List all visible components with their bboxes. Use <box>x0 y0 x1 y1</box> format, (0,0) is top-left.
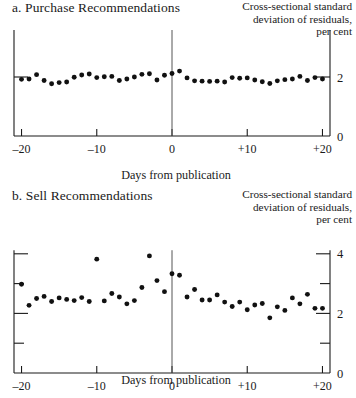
data-point <box>147 71 152 76</box>
data-point <box>252 78 257 83</box>
data-point <box>185 295 190 300</box>
data-point <box>267 81 272 86</box>
data-point <box>124 301 129 306</box>
data-point <box>34 296 39 301</box>
data-point <box>252 303 257 308</box>
data-point <box>297 301 302 306</box>
data-point <box>117 78 122 83</box>
data-point <box>192 78 197 83</box>
data-point <box>155 278 160 283</box>
data-point <box>170 271 175 276</box>
y-axis-ticks: 20 <box>14 30 343 144</box>
x-tick-label: 0 <box>169 142 175 156</box>
data-point <box>139 285 144 290</box>
data-point <box>155 78 160 83</box>
data-point <box>177 69 182 74</box>
data-point <box>162 289 167 294</box>
x-tick-label: +20 <box>313 142 332 156</box>
data-point <box>320 77 325 82</box>
data-point <box>64 297 69 302</box>
data-point <box>79 72 84 77</box>
data-point <box>177 273 182 278</box>
data-point <box>170 71 175 76</box>
data-point <box>313 306 318 311</box>
data-point <box>34 72 39 77</box>
data-point <box>290 295 295 300</box>
data-point <box>27 303 32 308</box>
data-point <box>102 74 107 79</box>
data-point <box>87 72 92 77</box>
data-point <box>200 79 205 84</box>
data-point <box>147 253 152 258</box>
data-point <box>185 75 190 80</box>
x-tick-label: –10 <box>87 142 106 156</box>
data-point <box>237 300 242 305</box>
data-point <box>282 77 287 82</box>
data-point <box>207 79 212 84</box>
data-point <box>19 77 24 82</box>
data-point <box>42 294 47 299</box>
data-point <box>49 299 54 304</box>
data-point <box>207 298 212 303</box>
data-point <box>132 75 137 80</box>
data-point <box>139 72 144 77</box>
data-point <box>260 301 265 306</box>
data-point <box>215 292 220 297</box>
data-point <box>305 78 310 83</box>
panel-a-plot-area: 20–20–100+10+20 <box>0 30 356 146</box>
data-point <box>87 299 92 304</box>
data-point <box>245 307 250 312</box>
data-point <box>109 74 114 79</box>
data-point <box>124 77 129 82</box>
data-point <box>215 79 220 84</box>
data-point <box>245 75 250 80</box>
data-point <box>109 291 114 296</box>
panel-b-title: b. Sell Recommendations <box>12 188 153 204</box>
x-tick-label: +10 <box>238 142 257 156</box>
data-point <box>132 298 137 303</box>
data-point <box>19 282 24 287</box>
y-tick-label: 4 <box>337 247 344 261</box>
data-point <box>117 295 122 300</box>
y-tick-label: 2 <box>337 71 343 85</box>
data-point <box>275 304 280 309</box>
x-tick-label: –20 <box>12 142 31 156</box>
data-point <box>94 257 99 262</box>
data-point <box>192 287 197 292</box>
y-tick-label: 2 <box>337 307 343 321</box>
data-point <box>222 300 227 305</box>
data-point <box>305 292 310 297</box>
data-point <box>72 75 77 80</box>
data-point <box>237 76 242 81</box>
data-point <box>290 77 295 82</box>
panel-b-x-axis-label: Days from publication <box>0 373 354 388</box>
data-point <box>49 81 54 86</box>
data-point <box>42 78 47 83</box>
data-point <box>313 75 318 80</box>
data-point <box>267 315 272 320</box>
data-point <box>162 73 167 78</box>
data-point <box>275 78 280 83</box>
data-point <box>57 80 62 85</box>
panel-purchase-recommendations: a. Purchase Recommendations Cross-sectio… <box>0 0 356 190</box>
data-point <box>27 77 32 82</box>
data-point <box>297 74 302 79</box>
data-point <box>230 75 235 80</box>
data-point <box>282 308 287 313</box>
data-point <box>230 304 235 309</box>
data-point <box>222 80 227 85</box>
data-point <box>57 295 62 300</box>
data-point <box>72 298 77 303</box>
panel-a-x-axis-label: Days from publication <box>0 168 354 183</box>
data-point <box>64 80 69 85</box>
y-tick-label: 0 <box>337 130 343 144</box>
data-point <box>79 295 84 300</box>
panel-a-title: a. Purchase Recommendations <box>12 0 180 16</box>
data-point <box>102 298 107 303</box>
chart-svg: 420–20–100+10+20 <box>0 218 356 390</box>
data-point <box>200 298 205 303</box>
data-point <box>94 75 99 80</box>
panel-sell-recommendations: b. Sell Recommendations Cross-sectional … <box>0 188 356 398</box>
data-point <box>320 306 325 311</box>
chart-svg: 20–20–100+10+20 <box>0 30 356 182</box>
